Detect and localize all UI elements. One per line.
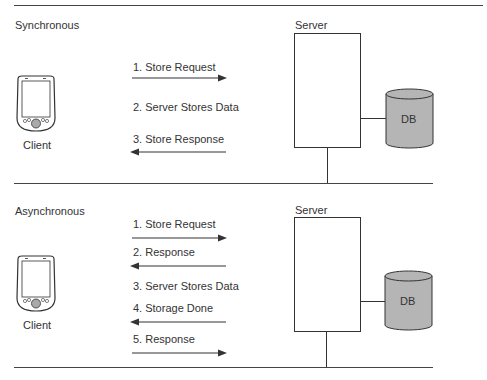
network-line <box>14 183 433 184</box>
step-label: 4. Storage Done <box>133 302 213 315</box>
server-db-link <box>361 118 386 119</box>
step-label: 3. Store Response <box>133 133 224 146</box>
arrow-left-icon <box>130 262 226 270</box>
server-box <box>294 217 361 332</box>
arrow-right-icon <box>132 74 227 82</box>
step-label: 1. Store Request <box>133 218 216 231</box>
client-label: Client <box>23 139 51 152</box>
arrow-left-icon <box>130 318 226 326</box>
section-title: Asynchronous <box>15 205 85 218</box>
arrow-right-icon <box>132 349 227 357</box>
arrow-right-icon <box>132 234 227 242</box>
step-label: 2. Server Stores Data <box>133 101 239 114</box>
step-label: 3. Server Stores Data <box>133 280 239 293</box>
network-line <box>14 367 433 368</box>
step-label: 2. Response <box>133 246 195 259</box>
pda-client-icon <box>15 256 57 312</box>
server-box <box>294 33 361 148</box>
server-db-link <box>361 301 386 302</box>
server-network-link <box>326 332 327 367</box>
server-network-link <box>327 148 328 183</box>
pda-client-icon <box>15 76 57 132</box>
arrow-left-icon <box>130 148 226 156</box>
top-divider <box>14 5 483 6</box>
db-label: DB <box>401 113 416 126</box>
section-title: Synchronous <box>15 19 79 32</box>
step-label: 5. Response <box>133 333 195 346</box>
server-label: Server <box>295 204 327 217</box>
step-label: 1. Store Request <box>133 61 216 74</box>
db-label: DB <box>400 295 415 308</box>
client-label: Client <box>23 319 51 332</box>
server-label: Server <box>295 19 327 32</box>
